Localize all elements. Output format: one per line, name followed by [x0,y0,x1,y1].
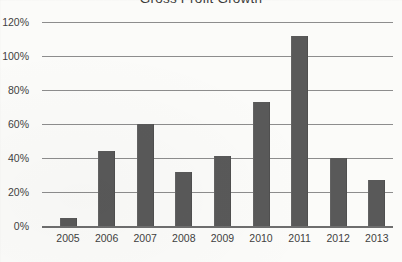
y-tick-label-0: 0% [0,220,29,232]
bar-2013[interactable] [368,180,385,226]
chart-screenshot: Gross Profit Growth 0%20%40%60%80%100%12… [0,0,402,262]
gridline-60 [42,124,393,125]
x-tick-label-2012: 2012 [318,232,358,244]
gridline-120 [42,22,393,23]
x-tick-label-2013: 2013 [357,232,397,244]
gridline-80 [42,90,393,91]
y-tick-label-100: 100% [0,50,29,62]
x-tick-label-2006: 2006 [87,232,127,244]
x-tick-label-2009: 2009 [202,232,242,244]
y-tick-label-120: 120% [0,16,29,28]
plot-area: 0%20%40%60%80%100%120% 20052006200720082… [42,22,393,226]
chart-title: Gross Profit Growth [0,0,402,6]
bar-2010[interactable] [253,102,270,226]
bar-2006[interactable] [98,151,115,226]
bar-2011[interactable] [291,36,308,226]
y-tick-label-20: 20% [0,186,29,198]
gridline-100 [42,56,393,57]
x-tick-label-2010: 2010 [241,232,281,244]
x-tick-label-2008: 2008 [164,232,204,244]
bar-2005[interactable] [60,218,77,227]
axis-baseline [42,226,393,228]
y-tick-label-60: 60% [0,118,29,130]
x-tick-label-2011: 2011 [280,232,320,244]
bar-2007[interactable] [137,124,154,226]
y-tick-label-40: 40% [0,152,29,164]
x-tick-label-2007: 2007 [125,232,165,244]
bar-2009[interactable] [214,156,231,226]
x-tick-label-2005: 2005 [48,232,88,244]
bar-2012[interactable] [330,158,347,226]
y-tick-label-80: 80% [0,84,29,96]
bar-2008[interactable] [175,172,192,226]
